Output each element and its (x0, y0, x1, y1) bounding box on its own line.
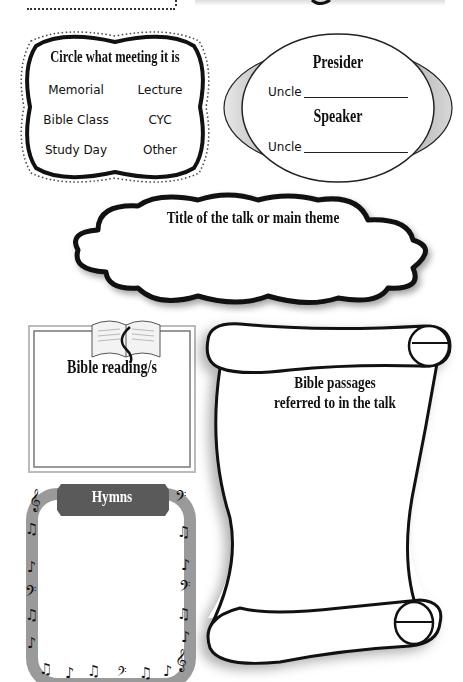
bass-clef-icon: 𝄢 (25, 585, 37, 600)
talk-title-label: Title of the talk or main theme (109, 208, 398, 228)
presider-speaker-box: Presider Uncle Speaker Uncle (218, 32, 458, 184)
beamed-notes-icon: ♫ (177, 525, 190, 540)
meeting-type-box: Circle what meeting it is Memorial Lectu… (22, 32, 208, 182)
meeting-type-title: Circle what meeting it is (42, 48, 187, 66)
eighth-note-icon: ♪ (181, 558, 191, 573)
bass-clef-icon: 𝄢 (179, 580, 191, 595)
beamed-notes-icon: ♫ (25, 608, 38, 623)
speaker-heading: Speaker (244, 106, 431, 127)
hymn-frame-icon (25, 480, 197, 680)
meeting-option-cyc[interactable]: CYC (120, 113, 200, 127)
open-bible-icon (28, 325, 196, 473)
meeting-option-other[interactable]: Other (120, 143, 200, 157)
bass-clef-icon: 𝄢 (117, 666, 127, 681)
talk-title-cloud[interactable]: Title of the talk or main theme (68, 190, 438, 305)
presider-prefix: Uncle (268, 85, 302, 99)
beamed-notes-icon: ♫ (87, 664, 100, 679)
speaker-blank[interactable] (304, 152, 408, 153)
beamed-notes-icon: ♫ (39, 662, 52, 677)
speaker-prefix: Uncle (268, 140, 302, 154)
bass-clef-icon: 𝄢 (175, 490, 187, 505)
treble-clef-icon: 𝄞 (29, 492, 41, 507)
beamed-notes-icon: ♫ (25, 522, 38, 537)
meeting-option-bible-class[interactable]: Bible Class (36, 113, 116, 127)
treble-clef-icon: 𝄞 (175, 652, 187, 667)
beamed-notes-icon: ♫ (177, 607, 190, 622)
eighth-note-icon: ♪ (65, 666, 75, 681)
eighth-note-icon: ♪ (163, 664, 173, 679)
bible-reading-title: Bible reading/s (46, 357, 177, 378)
beamed-notes-icon: ♫ (139, 666, 152, 681)
meeting-option-memorial[interactable]: Memorial (36, 83, 116, 97)
eighth-note-icon: ♪ (27, 560, 37, 575)
presider-field[interactable]: Uncle (268, 85, 408, 99)
speaker-field[interactable]: Uncle (268, 140, 408, 154)
bible-passages-scroll[interactable]: Bible passages referred to in the talk (200, 318, 463, 680)
hymns-box[interactable]: Hymns 𝄞 ♫ ♪ 𝄢 ♫ ♪ 𝄢 ♫ ♪ 𝄢 ♫ ♪ 𝄞 ♫ ♪ ♫ 𝄢 … (25, 480, 197, 680)
meeting-option-study-day[interactable]: Study Day (36, 143, 116, 157)
meeting-option-lecture[interactable]: Lecture (120, 83, 200, 97)
eighth-note-icon: ♪ (27, 636, 37, 651)
presider-heading: Presider (244, 52, 431, 73)
presider-blank[interactable] (304, 97, 408, 98)
top-shadow-decoration (0, 0, 463, 20)
hymns-title: Hymns (78, 487, 145, 507)
bible-reading-box[interactable]: Bible reading/s (28, 325, 196, 473)
bible-passages-title: Bible passages referred to in the talk (253, 373, 417, 413)
bible-passages-title-line1: Bible passages (253, 373, 417, 393)
bible-passages-title-line2: referred to in the talk (253, 393, 417, 413)
eighth-note-icon: ♪ (181, 630, 191, 645)
